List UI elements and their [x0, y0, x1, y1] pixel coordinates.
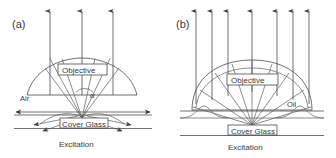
panel-b-caption: Excitation	[228, 143, 263, 152]
panel-b-group	[180, 11, 324, 136]
panel-a-substrate-label: Cover Glass	[62, 120, 106, 129]
figure-root: (a) Objective Air α Cover Glass Excitati…	[0, 0, 336, 158]
tirf-objective-diagram: (a) Objective Air α Cover Glass Excitati…	[0, 0, 336, 158]
panel-b-label: (b)	[176, 18, 189, 30]
panel-b-substrate-label: Cover Glass	[231, 127, 275, 136]
panel-a-medium-label: Air	[20, 94, 30, 103]
panel-a-objective-label: Objective	[62, 66, 96, 75]
panel-a-angle-label: α	[90, 91, 95, 100]
panel-b-medium-label: Oil	[287, 100, 297, 109]
panel-a-label: (a)	[12, 18, 25, 30]
panel-a-emission-arrows	[50, 11, 113, 95]
panel-b-emission-arrows	[196, 11, 309, 104]
panel-b-objective-label: Objective	[231, 76, 265, 85]
panel-a-caption: Excitation	[59, 140, 94, 149]
